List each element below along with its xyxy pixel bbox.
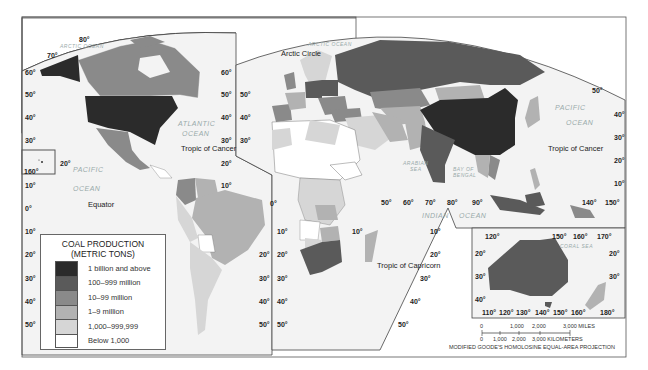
lat-label: 30° bbox=[240, 137, 251, 144]
lat-label: 40° bbox=[410, 298, 421, 305]
lat-label: 80° bbox=[79, 36, 90, 43]
lat-label: 50° bbox=[25, 91, 36, 98]
lon-label: 120° bbox=[499, 309, 513, 316]
lat-label: 50° bbox=[240, 91, 251, 98]
scale-miles-3000: 3,000 MILES bbox=[563, 323, 595, 329]
lat-label: 50° bbox=[277, 321, 288, 328]
legend-swatch bbox=[55, 334, 78, 349]
legend-item: Below 1,000 bbox=[55, 334, 151, 349]
region-zimbabwe bbox=[320, 226, 340, 242]
lat-label: 20° bbox=[430, 251, 441, 258]
lat-label: 0° bbox=[25, 205, 32, 212]
legend: COAL PRODUCTION (METRIC TONS) 1 billion … bbox=[40, 234, 166, 350]
arctic-circle-label: Arctic Circle bbox=[281, 50, 321, 58]
lat-label: 30° bbox=[221, 137, 232, 144]
lon-label: 150° bbox=[553, 309, 567, 316]
lat-label: 50° bbox=[221, 91, 232, 98]
arctic-ocean-label-east: ARCTIC OCEAN bbox=[308, 42, 352, 47]
lon-label: 70° bbox=[425, 199, 436, 206]
legend-label: 100–999 million bbox=[88, 278, 141, 287]
scale-km-0: 0 bbox=[480, 336, 483, 342]
lon-label: 140° bbox=[582, 199, 596, 206]
indian-ocean-label-2: OCEAN bbox=[459, 212, 486, 219]
lon-label: 110° bbox=[482, 309, 496, 316]
legend-swatch bbox=[55, 261, 78, 276]
pacific-ocean-label-west-2: OCEAN bbox=[73, 185, 100, 192]
legend-item: 10–99 million bbox=[55, 290, 151, 305]
legend-label: Below 1,000 bbox=[88, 336, 129, 345]
lat-label: 30° bbox=[277, 275, 288, 282]
lat-label: 20° bbox=[609, 250, 620, 257]
lon-label: 170° bbox=[597, 233, 611, 240]
atlantic-ocean-label-2: OCEAN bbox=[182, 130, 209, 137]
tropic-of-cancer-label-east: Tropic of Cancer bbox=[548, 145, 603, 153]
lat-label: 10° bbox=[430, 228, 441, 235]
lat-label: 10° bbox=[614, 180, 625, 187]
lat-label: 20° bbox=[277, 251, 288, 258]
lat-label: 40° bbox=[277, 298, 288, 305]
legend-item: 1,000–999,999 bbox=[55, 319, 151, 334]
scale-miles-2000: 2,000 bbox=[532, 323, 546, 329]
region-germany bbox=[305, 80, 322, 98]
lat-label: 60° bbox=[25, 69, 36, 76]
pacific-ocean-label-east-2: OCEAN bbox=[566, 119, 593, 126]
atlantic-ocean-label: ATLANTIC bbox=[178, 120, 215, 127]
lat-label: 50° bbox=[259, 321, 270, 328]
lon-label: 130° bbox=[516, 309, 530, 316]
legend-swatch bbox=[55, 276, 78, 291]
tropic-of-cancer-label-west: Tropic of Cancer bbox=[181, 145, 236, 153]
legend-title: COAL PRODUCTION (METRIC TONS) bbox=[41, 239, 165, 259]
lon-label: 140° bbox=[535, 309, 549, 316]
legend-swatch bbox=[55, 319, 78, 334]
scale-km-3000: 3,000 KILOMETERS bbox=[532, 336, 583, 342]
lat-label: 10° bbox=[25, 182, 36, 189]
lon-label: 80° bbox=[447, 199, 458, 206]
lat-label: 40° bbox=[25, 114, 36, 121]
lat-label: 40° bbox=[221, 114, 232, 121]
lat-label: 20° bbox=[614, 157, 625, 164]
legend-label: 1–9 million bbox=[88, 307, 124, 316]
lat-label: 20° bbox=[259, 251, 270, 258]
lat-label: 50° bbox=[592, 87, 603, 94]
lat-label: 20° bbox=[60, 160, 71, 167]
lon-label: 160° bbox=[24, 168, 38, 175]
bay-of-bengal-label-2: BENGAL bbox=[453, 173, 476, 178]
lat-label: 70° bbox=[47, 52, 58, 59]
lat-label: 30° bbox=[25, 137, 36, 144]
coral-sea-label: CORAL SEA bbox=[560, 244, 593, 249]
lon-label: 150° bbox=[552, 233, 566, 240]
lat-label: 30° bbox=[475, 273, 486, 280]
lat-label: 0° bbox=[270, 200, 277, 207]
lat-label: 40° bbox=[25, 298, 36, 305]
lat-label: 30° bbox=[259, 275, 270, 282]
scale-miles-1000: 1,000 bbox=[510, 323, 524, 329]
legend-item: 1–9 million bbox=[55, 305, 151, 320]
lat-label: 20° bbox=[25, 251, 36, 258]
pacific-ocean-label-west: PACIFIC bbox=[73, 166, 104, 173]
lon-label: 160° bbox=[571, 309, 585, 316]
tropic-of-capricorn-label: Tropic of Capricorn bbox=[377, 262, 441, 270]
lat-label: 40° bbox=[240, 114, 251, 121]
lat-label: 40° bbox=[259, 298, 270, 305]
equator-label: Equator bbox=[88, 201, 114, 209]
lat-label: 30° bbox=[614, 134, 625, 141]
legend-rows: 1 billion and above 100–999 million 10–9… bbox=[55, 261, 151, 348]
lon-label: 150° bbox=[605, 199, 619, 206]
lon-label: 180° bbox=[600, 309, 614, 316]
legend-label: 1,000–999,999 bbox=[88, 322, 138, 331]
lat-label: 30° bbox=[25, 275, 36, 282]
lat-label: 20° bbox=[475, 250, 486, 257]
lat-label: 10° bbox=[352, 228, 363, 235]
lon-label: 60° bbox=[403, 199, 414, 206]
legend-title-line2: (METRIC TONS) bbox=[41, 249, 165, 259]
scale-km-2000: 2,000 bbox=[512, 336, 526, 342]
legend-item: 1 billion and above bbox=[55, 261, 151, 276]
scale-km-1000: 1,000 bbox=[493, 336, 507, 342]
lat-label: 60° bbox=[221, 69, 232, 76]
region-bolivia bbox=[198, 235, 215, 252]
region-poland bbox=[322, 80, 338, 96]
lon-label: 120° bbox=[485, 233, 499, 240]
lon-label: 160° bbox=[573, 233, 587, 240]
legend-title-line1: COAL PRODUCTION bbox=[41, 239, 165, 249]
indian-ocean-label: INDIAN bbox=[422, 212, 449, 219]
